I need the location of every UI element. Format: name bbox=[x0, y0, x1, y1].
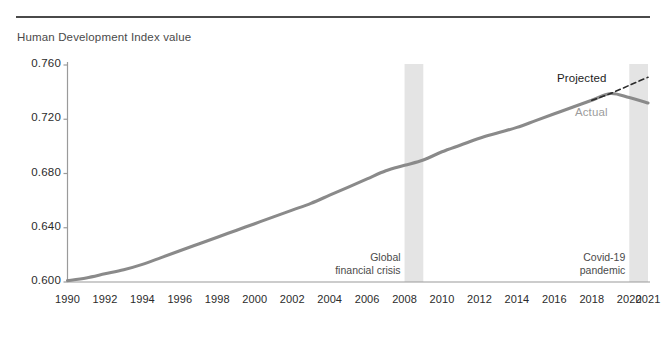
chart-plot-area bbox=[0, 0, 666, 342]
shaded-bands-group bbox=[405, 64, 648, 282]
x-tick-label-16: 2021 bbox=[631, 293, 665, 305]
y-tick-label-1: 0.720 bbox=[17, 111, 61, 123]
shaded-band-0 bbox=[405, 64, 424, 282]
x-tick-label-10: 2010 bbox=[425, 293, 459, 305]
y-tick-label-3: 0.640 bbox=[17, 220, 61, 232]
x-tick-label-7: 2004 bbox=[313, 293, 347, 305]
x-tick-label-14: 2018 bbox=[575, 293, 609, 305]
x-tick-label-9: 2008 bbox=[388, 293, 422, 305]
annotation-actual-label: Actual bbox=[575, 106, 608, 118]
covid-label-line1: Covid-19 bbox=[583, 251, 625, 263]
y-tick-label-0: 0.760 bbox=[17, 57, 61, 69]
x-tick-label-11: 2012 bbox=[462, 293, 496, 305]
x-tick-label-1: 1992 bbox=[88, 293, 122, 305]
x-tick-label-4: 1998 bbox=[200, 293, 234, 305]
x-tick-label-12: 2014 bbox=[500, 293, 534, 305]
axes-group bbox=[64, 62, 651, 282]
x-tick-label-0: 1990 bbox=[51, 293, 85, 305]
y-tick-label-2: 0.680 bbox=[17, 166, 61, 178]
x-tick-label-3: 1996 bbox=[163, 293, 197, 305]
annotation-projected-label: Projected bbox=[557, 72, 606, 84]
x-tick-label-8: 2006 bbox=[350, 293, 384, 305]
x-tick-label-5: 2000 bbox=[238, 293, 272, 305]
x-tick-label-6: 2002 bbox=[275, 293, 309, 305]
covid-label-line2: pandemic bbox=[0, 264, 625, 277]
x-tick-label-2: 1994 bbox=[125, 293, 159, 305]
annotation-covid-pandemic: Covid-19 pandemic bbox=[0, 251, 625, 276]
figure-container: Human Development Index value 0.7600.720… bbox=[0, 0, 666, 342]
x-tick-label-13: 2016 bbox=[537, 293, 571, 305]
